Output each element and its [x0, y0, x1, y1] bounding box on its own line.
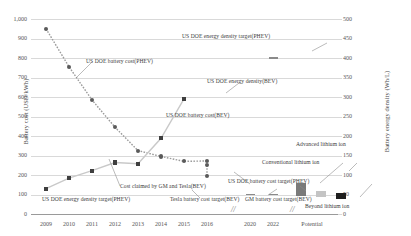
data-point-marker: [44, 187, 48, 191]
x-axis-break-2: //: [290, 205, 294, 214]
data-point-marker: [269, 57, 278, 59]
battery-cost-energy-density-chart: Battery cost (USD/kWh) Battery energy de…: [0, 0, 411, 236]
annotation-cost-claimed-gm-tesla-bev: Cost claimed by GM and Tesla(BEV): [120, 183, 206, 189]
data-point-marker: [90, 98, 94, 102]
annotation-conventional-lithium-ion: Conventional lithium ion: [262, 159, 319, 165]
annotation-gm-battery-cost-target-bev: GM battery cost target(BEV): [245, 196, 312, 202]
annotation-us-doe-battery-cost-phev: US DOE battery cost(PHEV): [86, 58, 153, 64]
data-point-marker: [90, 169, 94, 173]
data-point-marker: [159, 154, 163, 158]
data-point-marker: [136, 149, 140, 153]
data-point-marker: [136, 162, 140, 166]
data-point-marker: [67, 176, 71, 180]
potential-bar: [336, 193, 346, 199]
data-point-marker: [67, 65, 71, 69]
data-point-marker: [182, 97, 186, 101]
annotation-tesla-battery-cost-target-bev: Tesla battery cost target(BEV): [170, 196, 240, 202]
annotation-us-doe-battery-cost-target-phev: US DOE battery cost target(PHEV): [228, 178, 309, 184]
annotation-beyond-lithium-ion: Beyond lithium ion: [305, 203, 349, 209]
potential-bar: [316, 191, 326, 197]
annotation-us-doe-energy-density-target-phev: US DOE energy density target(PHEV): [182, 33, 270, 39]
annotation-us-doe-energy-density-bev: US DOE energy density(BEV): [207, 78, 277, 84]
x-axis-break-1: //: [231, 205, 235, 214]
data-point-marker: [44, 27, 48, 31]
series-line: [46, 29, 207, 162]
data-point-marker: [159, 136, 163, 140]
annotation-advanced-lithium-ion: Advanced lithium ion: [296, 141, 346, 147]
data-point-marker: [113, 160, 117, 164]
potential-bar: [296, 183, 306, 196]
annotation-us-doe-battery-cost-bev: US DOE battery cost(BEV): [166, 112, 230, 118]
annotation-us-doe-energy-density-target-phev-2: US DOE energy density target(PHEV): [42, 196, 130, 202]
